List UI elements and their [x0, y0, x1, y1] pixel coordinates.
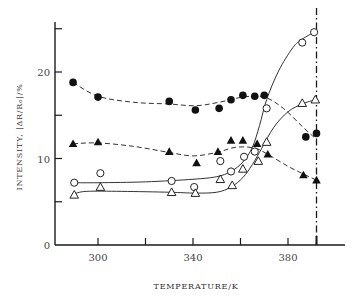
- data-point-filled-triangle: [264, 150, 273, 158]
- chart: 30034038001020 TEMPERATURE/K INTENSITY, …: [0, 0, 359, 298]
- data-point-open-triangle: [96, 183, 105, 191]
- y-tick-label: 20: [37, 67, 50, 78]
- data-point-open-circle: [251, 148, 258, 155]
- data-point-filled-circle: [302, 133, 310, 141]
- data-point-filled-circle: [165, 98, 173, 106]
- x-tick-label: 380: [278, 252, 297, 263]
- data-point-filled-circle: [251, 92, 259, 100]
- data-point-filled-triangle: [94, 138, 103, 146]
- y-axis-title: INTENSITY, |ΔR/R₀|/%: [15, 83, 24, 190]
- data-point-open-circle: [299, 39, 306, 46]
- data-point-filled-circle: [227, 96, 235, 104]
- data-point-filled-circle: [94, 93, 102, 101]
- y-tick-label: 10: [37, 154, 50, 165]
- data-point-open-circle: [227, 168, 234, 175]
- x-tick-label: 340: [183, 252, 202, 263]
- data-point-open-triangle: [70, 191, 79, 199]
- data-point-open-circle: [311, 29, 318, 36]
- data-point-open-circle: [263, 105, 270, 112]
- data-point-open-circle: [71, 179, 78, 186]
- data-point-open-circle: [191, 183, 198, 190]
- data-point-filled-triangle: [214, 147, 223, 155]
- data-point-open-triangle: [262, 138, 271, 146]
- data-point-filled-circle: [313, 130, 321, 138]
- data-point-filled-triangle: [192, 159, 201, 167]
- data-point-filled-triangle: [239, 136, 248, 144]
- data-point-filled-circle: [215, 105, 223, 113]
- x-tick-label: 300: [88, 252, 107, 263]
- x-axis-title: TEMPERATURE/K: [154, 282, 239, 291]
- data-point-filled-circle: [239, 92, 247, 100]
- data-point-filled-circle: [192, 106, 200, 114]
- data-point-filled-circle: [69, 79, 77, 87]
- y-tick-label: 0: [44, 240, 50, 251]
- series-curve: [73, 143, 316, 180]
- data-point-open-circle: [168, 177, 175, 184]
- series-curve: [74, 100, 315, 194]
- data-point-open-circle: [240, 153, 247, 160]
- data-point-filled-triangle: [227, 136, 236, 144]
- data-point-filled-triangle: [312, 176, 321, 184]
- plot-area: [69, 8, 321, 245]
- axes: 30034038001020: [37, 22, 345, 263]
- data-point-filled-triangle: [299, 171, 308, 179]
- data-point-filled-triangle: [165, 147, 174, 155]
- data-point-open-triangle: [311, 95, 320, 103]
- series-filled-triangles: [69, 136, 321, 183]
- data-point-open-circle: [97, 170, 104, 177]
- data-point-open-circle: [217, 157, 224, 164]
- series-filled-circles: [69, 79, 320, 141]
